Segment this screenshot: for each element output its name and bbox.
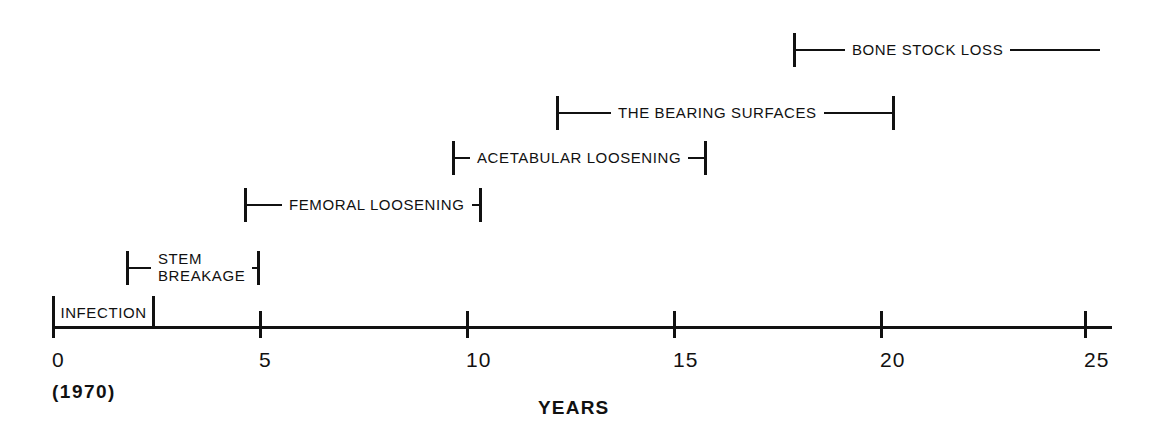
x-axis-line: [52, 326, 1112, 329]
x-axis-tick-10: [466, 311, 469, 338]
x-axis-tick-label-15: 15: [673, 349, 698, 370]
interval-label-femoral-loosening: FEMORAL LOOSENING: [282, 197, 472, 214]
interval-label-the-bearing-surfaces: THE BEARING SURFACES: [611, 105, 824, 122]
interval-label-acetabular-loosening: ACETABULAR LOOSENING: [470, 150, 688, 167]
interval-bar-acetabular-loosening: ACETABULAR LOOSENING: [452, 141, 707, 175]
infection-wall-right: [152, 296, 155, 327]
interval-box-infection: INFECTION: [52, 296, 155, 327]
interval-bar-stem-breakage: STEM BREAKAGE: [126, 251, 260, 285]
interval-label-stem-breakage: STEM BREAKAGE: [151, 251, 252, 285]
interval-bar-bone-stock-loss: BONE STOCK LOSS: [793, 33, 1100, 67]
interval-label-line-2: BREAKAGE: [158, 268, 245, 285]
x-axis-tick-label-20: 20: [880, 349, 905, 370]
interval-label-infection: INFECTION: [60, 303, 146, 320]
interval-bar-the-bearing-surfaces: THE BEARING SURFACES: [556, 96, 895, 130]
infection-wall-left: [52, 296, 55, 327]
x-axis-tick-label-10: 10: [466, 349, 491, 370]
interval-bar-femoral-loosening: FEMORAL LOOSENING: [244, 188, 482, 222]
axis-origin-note: (1970): [52, 382, 116, 401]
x-axis-tick-label-0: 0: [52, 349, 65, 370]
x-axis-tick-20: [880, 311, 883, 338]
x-axis-tick-label-5: 5: [259, 349, 272, 370]
x-axis-tick-0: [52, 326, 55, 338]
x-axis-tick-label-25: 25: [1084, 349, 1109, 370]
timeline-chart: BONE STOCK LOSS THE BEARING SURFACES ACE…: [0, 0, 1164, 433]
interval-label-line-1: STEM: [158, 251, 245, 268]
interval-label-bone-stock-loss: BONE STOCK LOSS: [845, 42, 1010, 59]
x-axis-tick-5: [259, 311, 262, 338]
x-axis-tick-15: [673, 311, 676, 338]
x-axis-title: YEARS: [538, 398, 609, 417]
x-axis-tick-25: [1084, 311, 1087, 338]
